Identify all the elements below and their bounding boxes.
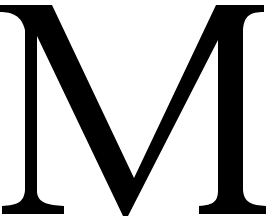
letter-m-shape: [0, 0, 269, 223]
letter-m-glyph: M: [0, 0, 269, 223]
